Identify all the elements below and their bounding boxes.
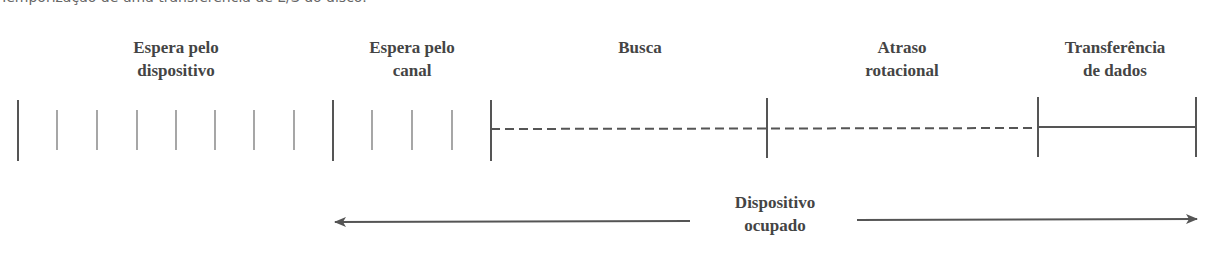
- busy-arrow-left: [335, 221, 690, 222]
- device-wait-ticks: [57, 110, 294, 150]
- device-busy-line1: Dispositivo: [735, 191, 815, 214]
- busy-arrow-right: [857, 219, 1197, 220]
- timeline-diagram: [0, 0, 1211, 254]
- device-busy-line2: ocupado: [735, 214, 815, 237]
- seek-rotation-dashed-line: [491, 128, 1038, 129]
- device-busy-label: Dispositivo ocupado: [735, 191, 815, 237]
- channel-wait-ticks: [372, 110, 452, 150]
